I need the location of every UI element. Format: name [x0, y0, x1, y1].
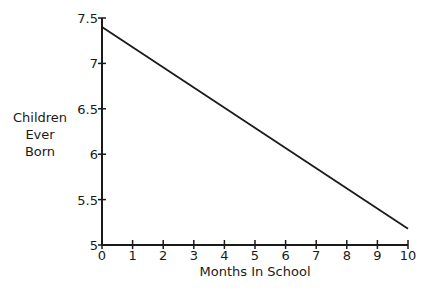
x-tick-label: 1 — [128, 248, 136, 263]
x-tick-label: 8 — [343, 248, 351, 263]
x-tick-label: 9 — [373, 248, 381, 263]
series-line — [102, 27, 408, 229]
x-tick-label: 10 — [400, 248, 417, 263]
y-axis-title-line: Born — [25, 144, 55, 159]
y-axis-title-line: Children — [13, 110, 67, 125]
y-axis-title-line: Ever — [25, 127, 55, 142]
x-tick-label: 3 — [190, 248, 198, 263]
x-tick-label: 0 — [98, 248, 106, 263]
x-tick-label: 4 — [220, 248, 228, 263]
line-chart: 55.566.577.5 012345678910 ChildrenEverBo… — [0, 0, 427, 291]
x-tick-label: 7 — [312, 248, 320, 263]
y-tick-label: 7 — [90, 56, 98, 71]
y-tick-label: 5.5 — [77, 193, 98, 208]
x-tick-label: 5 — [251, 248, 259, 263]
x-tick-label: 2 — [159, 248, 167, 263]
x-axis: 012345678910 — [98, 240, 416, 263]
x-axis-title: Months In School — [199, 264, 310, 279]
data-series — [102, 27, 408, 229]
y-tick-label: 6 — [90, 147, 98, 162]
y-tick-label: 5 — [90, 238, 98, 253]
y-tick-label: 6.5 — [77, 102, 98, 117]
y-tick-label: 7.5 — [77, 11, 98, 26]
y-axis: 55.566.577.5 — [77, 11, 106, 253]
x-tick-label: 6 — [281, 248, 289, 263]
y-axis-title: ChildrenEverBorn — [13, 110, 67, 159]
